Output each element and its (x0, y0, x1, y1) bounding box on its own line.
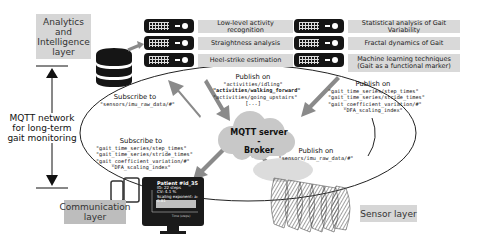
topic: "sensors/imu_raw_data/#" (276, 155, 356, 161)
monitor-line: Scaling exponent: a: 0.81 (157, 195, 203, 204)
service-heel-strike: Heel-strike estimation (198, 54, 293, 67)
topic: "gait_time_series/stride_times" (96, 151, 186, 157)
server-icon (294, 53, 344, 67)
network-label-line: MQTT network (6, 113, 78, 123)
service-straightness: Straightness analysis (198, 37, 293, 50)
server-icon (144, 36, 194, 50)
topic: "sensors/imu_raw_data/#" (100, 101, 170, 107)
flow-title: Subscribe to (96, 137, 186, 145)
topic: "activities/going_upstairs" (213, 94, 293, 100)
topic: [...] (213, 100, 293, 106)
network-label-line: for long-term (6, 123, 78, 133)
sensor-devices-icon (253, 158, 350, 232)
flow-title: Publish on (276, 147, 356, 155)
broker-label-line: MQTT server - (228, 128, 290, 146)
communication-layer-box: Communication layer (64, 200, 126, 224)
analytics-label-line: Intelligence (37, 37, 89, 47)
service-machine-learning: Machine learning techniques (Gait as a f… (348, 54, 460, 72)
database-icon (96, 48, 132, 87)
server-icon (144, 53, 194, 67)
service-fractal-dynamics: Fractal dynamics of Gait (348, 37, 460, 50)
flow-title: Subscribe to (100, 93, 170, 101)
analytics-label-line: Analytics (43, 17, 84, 27)
topic: "gait_coefficient_variation/#" (328, 101, 418, 107)
analytics-label-line: layer (52, 47, 75, 57)
publish-raw-flow: Publish on "sensors/imu_raw_data/#" (276, 147, 356, 161)
ml-line: (Gait as a functional marker) (357, 63, 451, 70)
server-icon (144, 19, 194, 33)
publish-activities-flow: Publish on "activities/idling" "activiti… (213, 73, 293, 106)
communication-label-line: Communication (60, 202, 131, 212)
analytics-label-line: and (55, 27, 72, 37)
network-label-line: gait monitoring (6, 133, 78, 143)
flow-title: Publish on (328, 80, 418, 88)
subscribe-raw-flow: Subscribe to "sensors/imu_raw_data/#" (100, 93, 170, 107)
flow-title: Publish on (213, 73, 293, 81)
subscribe-gait-flow: Subscribe to "gait_time_series/step_time… (96, 137, 186, 170)
monitor-screen: Patient #id_35 ID: 22 steps CV: 4.1 % Sc… (157, 181, 203, 204)
publish-gait-flow: Publish on "gait_time_series/step_times"… (328, 80, 418, 113)
monitor-xlabel: Time (steps) (166, 214, 196, 218)
service-gait-variability: Statistical analysis of Gait Variability (348, 20, 460, 33)
communication-label-line: layer (84, 212, 107, 222)
topic: "DFA_scaling_index" (328, 107, 418, 113)
server-icon (294, 36, 344, 50)
mobile-devices-icon (111, 178, 139, 202)
topic: "gait_time_series/stride_times" (328, 94, 418, 100)
analytics-layer-box: Analytics and Intelligence layer (36, 14, 91, 59)
server-icon (294, 19, 344, 33)
topic: "gait_coefficient_variation/#" (96, 158, 186, 164)
topic-highlighted: "activities/walking_forward" (213, 87, 293, 93)
network-label: MQTT network for long-term gait monitori… (6, 113, 78, 143)
sensor-layer-box: Sensor layer (360, 205, 417, 222)
topic: "DFA_scaling_index" (96, 164, 186, 170)
service-low-level-activity: Low-level activity recognition (198, 20, 293, 33)
